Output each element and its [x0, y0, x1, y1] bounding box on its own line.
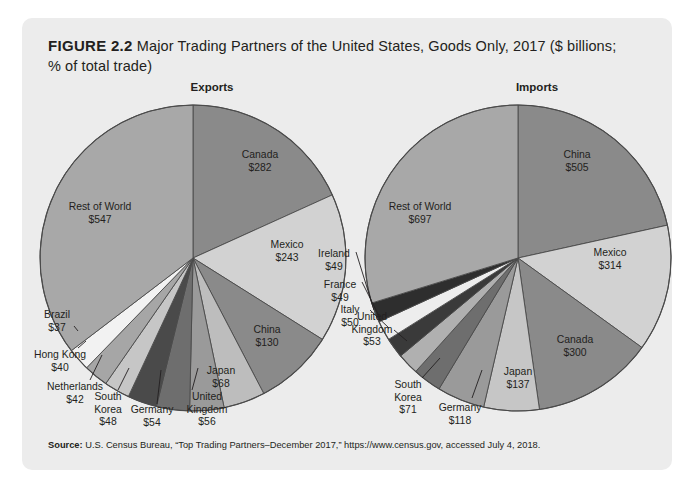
pie-label-south-korea: SouthKorea$48	[94, 391, 122, 427]
pie-label-japan: Japan$137	[504, 366, 533, 390]
pie-label-germany: Germany$118	[439, 402, 483, 426]
pie-label-china: China$505	[563, 149, 590, 173]
pie-label-italy: Italy$50	[340, 304, 360, 328]
pie-label-germany: Germany$54	[131, 404, 175, 428]
pie-label-united-kingdom: UnitedKingdom$56	[186, 391, 227, 427]
pie-label-china: China$130	[253, 324, 280, 348]
pie-label-south-korea: SouthKorea$71	[394, 379, 422, 415]
pie-label-hong-kong: Hong Kong$40	[34, 349, 86, 373]
figure-source: Source: U.S. Census Bureau, “Top Trading…	[48, 440, 648, 450]
trading-partners-pie-charts: Canada$282Mexico$243China$130Japan$68Uni…	[22, 18, 672, 470]
source-label: Source:	[48, 440, 83, 450]
figure-card: FIGURE 2.2 Major Trading Partners of the…	[22, 18, 672, 470]
source-text: U.S. Census Bureau, “Top Trading Partner…	[85, 440, 540, 450]
exports-pie-chart	[40, 105, 346, 411]
